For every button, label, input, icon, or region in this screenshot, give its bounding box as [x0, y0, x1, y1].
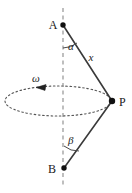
segment-length-label-x: x: [88, 51, 94, 63]
point-p-marker: [109, 98, 115, 104]
point-a-label: A: [49, 18, 58, 32]
diagram-canvas: A P B x α β ω: [0, 0, 132, 193]
rotation-circle: [5, 86, 111, 116]
point-b-label: B: [48, 162, 56, 176]
omega-label: ω: [32, 72, 40, 84]
physics-diagram-figure: A P B x α β ω: [0, 0, 132, 193]
segment-a-to-p: [63, 25, 112, 101]
point-b-marker: [61, 165, 66, 170]
point-p-label: P: [119, 95, 126, 109]
point-a-marker: [60, 22, 65, 27]
omega-direction-arrowhead: [36, 85, 46, 91]
alpha-angle-label: α: [68, 40, 74, 52]
beta-angle-label: β: [67, 134, 74, 146]
